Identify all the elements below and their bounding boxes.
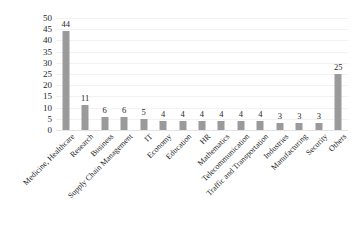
bar[interactable] bbox=[160, 121, 167, 130]
bar-slot[interactable]: 4 bbox=[212, 18, 231, 130]
y-axis-tick-label: 30 bbox=[43, 58, 52, 67]
bar-slot[interactable]: 25 bbox=[329, 18, 348, 130]
x-axis-label: Others bbox=[327, 132, 348, 153]
bar-value-label: 44 bbox=[61, 20, 70, 29]
bar-slot[interactable]: 3 bbox=[270, 18, 289, 130]
y-axis-tick-label: 15 bbox=[43, 92, 52, 101]
y-axis-tick-label: 40 bbox=[43, 36, 52, 45]
bar[interactable] bbox=[179, 121, 186, 130]
y-axis: 50454035302520151050 bbox=[28, 18, 52, 130]
x-axis-label: Medicine, Healthcare bbox=[21, 132, 76, 187]
bar-value-label: 4 bbox=[200, 110, 204, 119]
y-axis-tick-label: 10 bbox=[43, 103, 52, 112]
bar[interactable] bbox=[82, 105, 89, 130]
bar[interactable] bbox=[315, 123, 322, 130]
bar-slot[interactable]: 4 bbox=[173, 18, 192, 130]
y-axis-tick-label: 25 bbox=[43, 70, 52, 79]
bar[interactable] bbox=[218, 121, 225, 130]
y-axis-tick-label: 45 bbox=[43, 25, 52, 34]
bar-slot[interactable]: 4 bbox=[153, 18, 172, 130]
bar-slot[interactable]: 11 bbox=[75, 18, 94, 130]
bar-value-label: 4 bbox=[258, 110, 262, 119]
bar-slot[interactable]: 44 bbox=[56, 18, 75, 130]
x-axis-label: IT bbox=[142, 132, 154, 144]
bar-value-label: 3 bbox=[278, 112, 282, 121]
x-axis-category-labels: Medicine, HealthcareResearchBusinessSupp… bbox=[56, 132, 348, 237]
bar-value-label: 4 bbox=[219, 110, 223, 119]
bar-series: 441166544444433325 bbox=[56, 18, 348, 130]
bar[interactable] bbox=[335, 74, 342, 130]
y-axis-tick-label: 35 bbox=[43, 47, 52, 56]
bar[interactable] bbox=[276, 123, 283, 130]
bar-slot[interactable]: 6 bbox=[95, 18, 114, 130]
bar-value-label: 5 bbox=[141, 108, 145, 117]
bar[interactable] bbox=[62, 31, 69, 130]
x-axis-label: HR bbox=[198, 132, 212, 146]
bar-slot[interactable]: 6 bbox=[114, 18, 133, 130]
bar-chart: 50454035302520151050 441166544444433325 … bbox=[0, 0, 356, 237]
bar-value-label: 3 bbox=[297, 112, 301, 121]
y-axis-tick-label: 20 bbox=[43, 81, 52, 90]
bar-value-label: 25 bbox=[334, 63, 343, 72]
y-axis-tick-label: 5 bbox=[48, 114, 53, 123]
bar-slot[interactable]: 4 bbox=[192, 18, 211, 130]
y-axis-tick-label: 0 bbox=[48, 126, 53, 135]
bar-value-label: 4 bbox=[180, 110, 184, 119]
bar[interactable] bbox=[296, 123, 303, 130]
bar-slot[interactable]: 4 bbox=[231, 18, 250, 130]
y-axis-tick-label: 50 bbox=[43, 14, 52, 23]
bar[interactable] bbox=[198, 121, 205, 130]
bar-value-label: 4 bbox=[239, 110, 243, 119]
bar-slot[interactable]: 3 bbox=[309, 18, 328, 130]
bar-value-label: 3 bbox=[317, 112, 321, 121]
bar-value-label: 6 bbox=[122, 106, 126, 115]
bar-value-label: 4 bbox=[161, 110, 165, 119]
bar-slot[interactable]: 3 bbox=[290, 18, 309, 130]
bar[interactable] bbox=[140, 119, 147, 130]
bar[interactable] bbox=[101, 117, 108, 130]
bar-slot[interactable]: 4 bbox=[251, 18, 270, 130]
bar[interactable] bbox=[257, 121, 264, 130]
bar[interactable] bbox=[237, 121, 244, 130]
bar-value-label: 11 bbox=[81, 94, 89, 103]
bar[interactable] bbox=[121, 117, 128, 130]
bar-slot[interactable]: 5 bbox=[134, 18, 153, 130]
bar-value-label: 6 bbox=[103, 106, 107, 115]
gridline bbox=[56, 130, 348, 131]
plot-area: 441166544444433325 bbox=[56, 18, 348, 130]
